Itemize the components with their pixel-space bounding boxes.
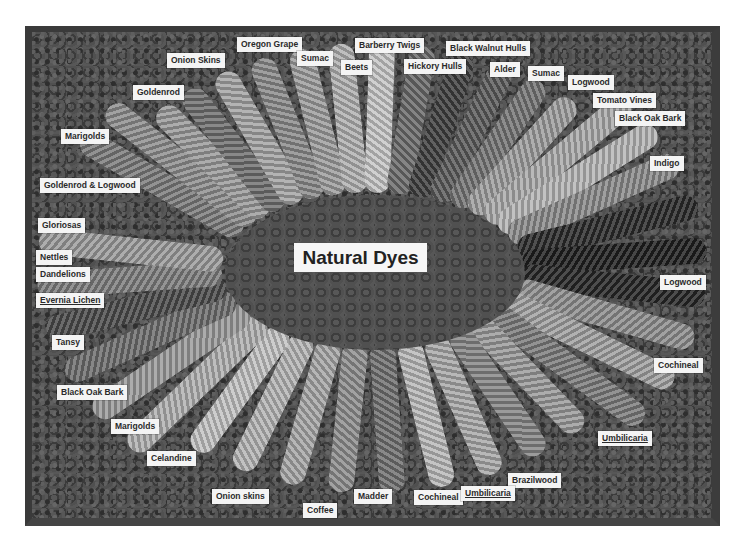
dye-label-text: Goldenrod: [137, 87, 180, 97]
dye-label: Indigo: [650, 156, 684, 171]
dye-label-text: Marigolds: [115, 421, 155, 431]
dye-label: Sumac: [297, 51, 333, 66]
dye-label-text: Barberry Twigs: [359, 40, 420, 50]
dye-label: Logwood: [660, 275, 706, 290]
dye-label-text: Madder: [358, 491, 388, 501]
dye-label-text: Cochineal: [658, 360, 699, 370]
dye-label-text: Umbilicaria: [602, 433, 648, 443]
dye-label: Madder: [354, 489, 392, 504]
dye-label: Nettles: [36, 250, 72, 265]
dye-label-text: Sumac: [301, 53, 329, 63]
dye-label: Umbilicaria: [461, 486, 515, 501]
dye-label: Onion skins: [212, 489, 269, 504]
dye-label: Alder: [490, 62, 520, 77]
dye-label: Hickory Hulls: [404, 59, 466, 74]
dye-label-text: Brazilwood: [512, 475, 557, 485]
dye-label-text: Cochineal: [418, 492, 459, 502]
dye-label-text: Black Oak Bark: [619, 113, 681, 123]
dye-label-text: Dandelions: [40, 269, 86, 279]
dye-label: Coffee: [303, 503, 337, 518]
dye-label-text: Evernia Lichen: [40, 295, 100, 305]
dye-label-text: Oregon Grape: [241, 39, 298, 49]
dye-label: Black Oak Bark: [57, 385, 127, 400]
dye-label: Goldenrod & Logwood: [40, 178, 140, 193]
dye-label-text: Logwood: [572, 77, 610, 87]
dye-label: Gloriosas: [38, 218, 85, 233]
dye-label-text: Coffee: [307, 505, 333, 515]
dye-label: Goldenrod: [133, 85, 184, 100]
dye-label: Black Oak Bark: [615, 111, 685, 126]
dye-label: Umbilicaria: [598, 431, 652, 446]
dye-label-text: Tomato Vines: [597, 95, 652, 105]
dye-label: Marigolds: [111, 419, 159, 434]
dye-label-text: Black Walnut Hulls: [450, 43, 526, 53]
dye-label: Oregon Grape: [237, 37, 302, 52]
dye-label: Evernia Lichen: [36, 293, 104, 308]
dye-label: Dandelions: [36, 267, 90, 282]
dye-label: Beets: [341, 60, 372, 75]
dye-label: Cochineal: [414, 490, 463, 505]
dye-label-text: Black Oak Bark: [61, 387, 123, 397]
dye-label: Onion Skins: [167, 53, 225, 68]
dye-label-text: Sumac: [532, 68, 560, 78]
dye-label: Marigolds: [61, 129, 109, 144]
dye-label-text: Umbilicaria: [465, 488, 511, 498]
dye-label-text: Logwood: [664, 277, 702, 287]
dye-label: Tansy: [52, 335, 84, 350]
dye-label-text: Alder: [494, 64, 516, 74]
dye-label: Tomato Vines: [593, 93, 656, 108]
dye-label-text: Goldenrod & Logwood: [44, 180, 136, 190]
dye-label-text: Tansy: [56, 337, 80, 347]
dye-label: Barberry Twigs: [355, 38, 424, 53]
dye-label: Black Walnut Hulls: [446, 41, 530, 56]
dye-label-text: Hickory Hulls: [408, 61, 462, 71]
dye-label: Celandine: [147, 451, 196, 466]
center-cork-area: [225, 195, 525, 350]
dye-label: Logwood: [568, 75, 614, 90]
title-label: Natural Dyes: [294, 243, 427, 272]
dye-label-text: Nettles: [40, 252, 68, 262]
dye-label-text: Marigolds: [65, 131, 105, 141]
dye-label: Cochineal: [654, 358, 703, 373]
dye-label-text: Beets: [345, 62, 368, 72]
dye-label-text: Onion Skins: [171, 55, 221, 65]
dye-label: Sumac: [528, 66, 564, 81]
dye-label-text: Indigo: [654, 158, 680, 168]
dye-label-text: Onion skins: [216, 491, 265, 501]
dye-label-text: Celandine: [151, 453, 192, 463]
dye-label-text: Gloriosas: [42, 220, 81, 230]
dye-label: Brazilwood: [508, 473, 561, 488]
